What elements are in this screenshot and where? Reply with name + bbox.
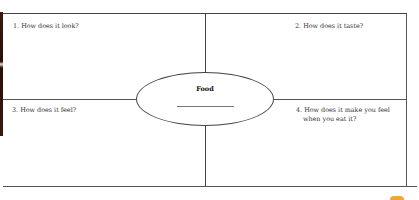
center-divider-top xyxy=(205,13,206,72)
middle-divider-right xyxy=(274,99,407,100)
quadrant-3-prompt: 3. How does it feel? xyxy=(12,106,76,115)
corner-badge xyxy=(390,196,404,200)
center-divider-bottom xyxy=(205,126,206,186)
bottom-border xyxy=(3,186,417,187)
answer-blank-line[interactable] xyxy=(177,106,234,107)
center-topic-label: Food xyxy=(137,85,273,93)
quadrant-1-prompt: 1. How does it look? xyxy=(13,22,79,31)
quadrant-4-line-2: when you eat it? xyxy=(296,115,390,124)
quadrant-4-prompt: 4. How does it make you feel when you ea… xyxy=(296,106,390,124)
middle-divider-left xyxy=(3,99,136,100)
center-topic-ellipse: Food xyxy=(136,72,274,126)
quadrant-2-prompt: 2. How does it taste? xyxy=(295,22,363,31)
quadrant-4-line-1: 4. How does it make you feel xyxy=(296,106,390,115)
